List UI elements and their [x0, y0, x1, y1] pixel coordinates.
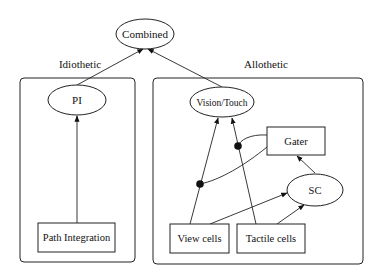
- edge-tactile-cells-to-sc: [277, 205, 304, 224]
- gater-label: Gater: [284, 136, 308, 147]
- node-vision-touch: Vision/Touch: [190, 87, 254, 117]
- edge-view-cells-to-vision: [190, 118, 218, 224]
- node-gater: Gater: [267, 127, 325, 155]
- edge-vision-to-combined: [148, 49, 222, 87]
- edge-tactile-cells-to-vision: [232, 118, 256, 224]
- node-tactile-cells: Tactile cells: [237, 224, 305, 253]
- diagram-canvas: Idiothetic Allothetic Combined PI Path I…: [0, 0, 382, 280]
- gating-dot-tactile: [234, 142, 242, 150]
- node-sc: SC: [287, 174, 343, 206]
- combined-label: Combined: [122, 28, 168, 40]
- pi-label: PI: [72, 94, 82, 106]
- tactile-cells-label: Tactile cells: [246, 233, 296, 244]
- gating-dot-view: [196, 180, 204, 188]
- sc-label: SC: [309, 185, 322, 196]
- idiothetic-label: Idiothetic: [59, 58, 101, 70]
- view-cells-label: View cells: [178, 233, 222, 244]
- node-pi: PI: [48, 85, 106, 115]
- edge-sc-to-gater: [297, 156, 315, 173]
- path-integration-label: Path Integration: [43, 232, 111, 243]
- edge-view-cells-to-sc: [210, 193, 287, 224]
- node-combined: Combined: [116, 19, 174, 49]
- allothetic-label: Allothetic: [244, 58, 288, 70]
- vision-touch-label: Vision/Touch: [196, 98, 247, 108]
- node-view-cells: View cells: [170, 224, 229, 253]
- gating-curve-view: [200, 147, 267, 184]
- node-path-integration: Path Integration: [38, 223, 115, 252]
- gating-curve-tactile: [238, 135, 267, 146]
